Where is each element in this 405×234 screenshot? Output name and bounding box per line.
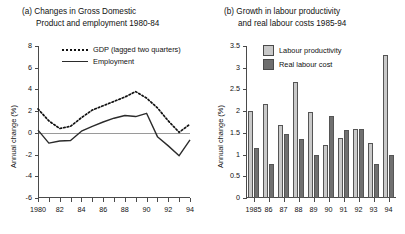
solid-line-swatch-icon [62, 61, 88, 62]
chart-a-x-tick [114, 198, 115, 202]
chart-a-y-tick [35, 155, 39, 156]
legend-label-real-labour-cost: Real labour cost [279, 60, 332, 69]
chart-a-x-tick [103, 198, 104, 202]
bar-real-labour-cost [344, 130, 349, 198]
chart-b-x-tick-label: 90 [325, 205, 333, 214]
chart-b-x-tick [284, 198, 285, 202]
chart-b-x-tick [359, 198, 360, 202]
chart-a-y-tick-label: 6 [12, 63, 32, 72]
chart-b-y-tick-label: 3.5 [218, 41, 240, 50]
chart-a-x-tick [81, 198, 82, 202]
chart-b-y-tick [243, 68, 247, 69]
chart-b-y-tick-label: 1.5 [218, 128, 240, 137]
chart-a-y-tick-label: -4 [12, 171, 32, 180]
chart-b-y-tick-label: 3 [218, 63, 240, 72]
chart-b-y-tick [243, 133, 247, 134]
chart-b-title-line1: (b) Growth in labour productivity [202, 6, 401, 18]
chart-a-x-tick [179, 198, 180, 202]
bar-labour-productivity [278, 125, 283, 198]
chart-b-y-tick [243, 46, 247, 47]
chart-a-x-tick [168, 198, 169, 202]
chart-a-y-tick [35, 133, 39, 134]
chart-a-legend: GDP (lagged two quarters) Employment [62, 45, 181, 69]
legend-item-employment: Employment [62, 57, 181, 66]
chart-a-x-tick-label: 88 [121, 205, 129, 214]
chart-b-y-tick [243, 198, 247, 199]
chart-b-x-tick [254, 198, 255, 202]
chart-a-x-tick-label: 86 [99, 205, 107, 214]
chart-a-y-tick-label: 4 [12, 84, 32, 93]
bar-labour-productivity [263, 104, 268, 198]
chart-a-x-tick [125, 198, 126, 202]
chart-b-x-tick-label: 86 [265, 205, 273, 214]
chart-b-x-tick [374, 198, 375, 202]
bar-real-labour-cost [269, 164, 274, 198]
chart-b-x-tick-label: 93 [370, 205, 378, 214]
figure-container: (a) Changes in Gross Domestic Product an… [0, 0, 405, 234]
chart-b-y-tick [243, 89, 247, 90]
bar-labour-productivity [338, 138, 343, 198]
chart-a-y-tick-label: -2 [12, 150, 32, 159]
bar-real-labour-cost [389, 155, 394, 198]
chart-a-y-tick-label: -6 [12, 193, 32, 202]
chart-b-x-tick [344, 198, 345, 202]
chart-b-y-tick-label: 0.5 [218, 171, 240, 180]
chart-b-title-line2: and real labour costs 1985-94 [202, 18, 401, 30]
dotted-line-swatch-icon [62, 49, 88, 51]
legend-label-employment: Employment [93, 57, 134, 66]
bar-labour-productivity [308, 112, 313, 198]
chart-a-x-tick [136, 198, 137, 202]
chart-a-x-tick [71, 198, 72, 202]
chart-a-x-tick [38, 198, 39, 202]
chart-a-x-tick [147, 198, 148, 202]
bar-labour-productivity [293, 82, 298, 198]
chart-b-x-tick-label: 94 [385, 205, 393, 214]
chart-b-y-axis [246, 46, 247, 198]
chart-a-x-tick [190, 198, 191, 202]
chart-a-x-tick-label: 84 [77, 205, 85, 214]
chart-b-x-tick [329, 198, 330, 202]
chart-a-y-tick [35, 111, 39, 112]
chart-b-y-tick [243, 176, 247, 177]
chart-b-y-tick-label: 2.5 [218, 84, 240, 93]
legend-item-real-labour-cost: Real labour cost [263, 59, 341, 70]
chart-b-x-tick [269, 198, 270, 202]
chart-b-y-tick [243, 111, 247, 112]
bar-real-labour-cost [284, 134, 289, 198]
chart-a-x-tick [60, 198, 61, 202]
chart-b-x-tick [314, 198, 315, 202]
chart-b-y-tick [243, 155, 247, 156]
bar-real-labour-cost [359, 129, 364, 198]
chart-panel-a: (a) Changes in Gross Domestic Product an… [0, 0, 202, 234]
chart-b-legend: Labour productivity Real labour cost [263, 45, 341, 73]
chart-a-x-tick-label: 92 [164, 205, 172, 214]
chart-a-x-tick-label: 82 [56, 205, 64, 214]
bar-real-labour-cost [314, 155, 319, 198]
chart-a-x-tick [157, 198, 158, 202]
bar-real-labour-cost [329, 116, 334, 198]
chart-a-title-line2: Product and employment 1980-84 [0, 18, 198, 30]
chart-b-x-tick [389, 198, 390, 202]
chart-b-x-tick-label: 92 [355, 205, 363, 214]
legend-label-gdp: GDP (lagged two quarters) [93, 45, 181, 54]
chart-a-x-tick [49, 198, 50, 202]
chart-b-x-tick-label: 87 [280, 205, 288, 214]
chart-b-x-tick-label: 91 [340, 205, 348, 214]
chart-a-y-tick-label: 8 [12, 41, 32, 50]
chart-b-x-tick-label: 89 [310, 205, 318, 214]
series-line-gdp [38, 92, 190, 133]
bar-labour-productivity [248, 111, 253, 198]
chart-a-x-tick-label: 90 [143, 205, 151, 214]
chart-b-x-tick-label: 88 [295, 205, 303, 214]
chart-a-x-tick [92, 198, 93, 202]
chart-a-y-tick [35, 46, 39, 47]
legend-label-labour-productivity: Labour productivity [279, 46, 341, 55]
chart-a-y-tick [35, 68, 39, 69]
chart-a-y-tick [35, 176, 39, 177]
chart-b-x-tick [299, 198, 300, 202]
chart-b-x-tick-label: 1985 [246, 205, 262, 214]
chart-panel-b: (b) Growth in labour productivity and re… [202, 0, 405, 234]
bar-real-labour-cost [374, 164, 379, 198]
bar-labour-productivity [353, 129, 358, 198]
chart-b-title: (b) Growth in labour productivity and re… [202, 6, 401, 29]
